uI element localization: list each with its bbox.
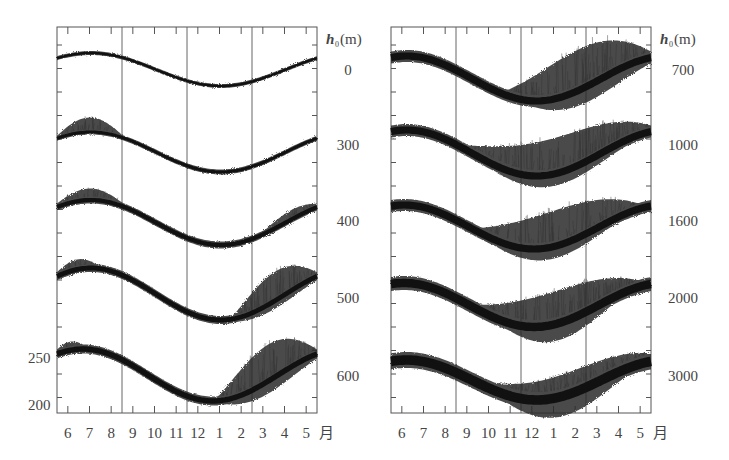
- svg-text:h: h: [326, 31, 334, 47]
- left-y-tick-200: 200: [28, 397, 51, 413]
- month-label: 2: [237, 425, 245, 441]
- right-x-tick-labels: 678910111212345月: [398, 425, 668, 441]
- month-label: 5: [636, 425, 644, 441]
- month-label: 12: [190, 425, 205, 441]
- h0-value-label: 0: [344, 62, 352, 78]
- svg-text:0: 0: [335, 40, 339, 49]
- month-label: 10: [481, 425, 496, 441]
- left-x-tick-labels: 678910111212345月: [64, 425, 334, 441]
- h0-value-label: 1000: [668, 137, 698, 153]
- figure: 250 200 678910111212345月 h 0 (m) 0300400…: [0, 0, 729, 460]
- svg-text:(m): (m): [340, 31, 362, 48]
- month-label: 1: [216, 425, 224, 441]
- right-panel: 678910111212345月 h 0 (m) 700100016002000…: [391, 27, 698, 441]
- month-label: 1: [550, 425, 558, 441]
- month-label: 2: [571, 425, 579, 441]
- left-y-tick-250: 250: [28, 350, 51, 366]
- right-h0-values: 7001000160020003000: [668, 62, 698, 384]
- month-unit-label: 月: [653, 425, 668, 441]
- h0-value-label: 600: [337, 368, 360, 384]
- h0-value-label: 700: [672, 62, 695, 78]
- month-label: 5: [302, 425, 310, 441]
- month-label: 9: [129, 425, 137, 441]
- month-label: 12: [524, 425, 539, 441]
- right-h0-legend-title: h 0 (m): [660, 31, 696, 49]
- left-h0-values: 0300400500600: [337, 62, 360, 384]
- month-label: 6: [398, 425, 406, 441]
- h0-value-label: 3000: [668, 368, 698, 384]
- month-label: 11: [169, 425, 183, 441]
- h0-value-label: 400: [337, 213, 360, 229]
- h0-value-label: 500: [337, 290, 360, 306]
- month-label: 7: [86, 425, 94, 441]
- month-label: 7: [420, 425, 428, 441]
- month-label: 10: [147, 425, 162, 441]
- month-label: 3: [259, 425, 267, 441]
- month-label: 8: [107, 425, 115, 441]
- h0-value-label: 2000: [668, 290, 698, 306]
- h0-value-label: 300: [337, 137, 360, 153]
- svg-text:0: 0: [669, 40, 673, 49]
- left-h0-legend-title: h 0 (m): [326, 31, 362, 49]
- month-label: 3: [593, 425, 601, 441]
- month-unit-label: 月: [319, 425, 334, 441]
- month-label: 8: [441, 425, 449, 441]
- svg-text:h: h: [660, 31, 668, 47]
- month-label: 11: [503, 425, 517, 441]
- month-label: 4: [615, 425, 623, 441]
- left-panel: 250 200 678910111212345月 h 0 (m) 0300400…: [28, 27, 362, 441]
- svg-text:(m): (m): [674, 31, 696, 48]
- month-label: 9: [463, 425, 471, 441]
- h0-value-label: 1600: [668, 213, 698, 229]
- month-label: 6: [64, 425, 72, 441]
- month-label: 4: [281, 425, 289, 441]
